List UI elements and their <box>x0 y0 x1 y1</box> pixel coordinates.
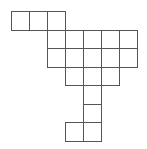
grid-cell <box>101 67 120 86</box>
grid-cell <box>83 122 102 142</box>
grid-cell <box>101 48 120 68</box>
square-grid-net <box>0 0 147 149</box>
grid-cell <box>65 48 84 68</box>
grid-cell <box>11 11 30 31</box>
grid-cell <box>119 30 138 49</box>
grid-cell <box>65 30 84 49</box>
grid-cell <box>47 11 66 31</box>
grid-cell <box>83 30 102 49</box>
grid-cell <box>47 48 66 68</box>
grid-cell <box>83 85 102 105</box>
grid-cell <box>83 67 102 86</box>
grid-cell <box>29 11 48 31</box>
grid-cell <box>65 67 84 86</box>
grid-cell <box>83 104 102 123</box>
grid-cell <box>47 30 66 49</box>
grid-cell <box>65 122 84 142</box>
grid-cell <box>83 48 102 68</box>
grid-cell <box>119 48 138 68</box>
grid-cell <box>101 30 120 49</box>
